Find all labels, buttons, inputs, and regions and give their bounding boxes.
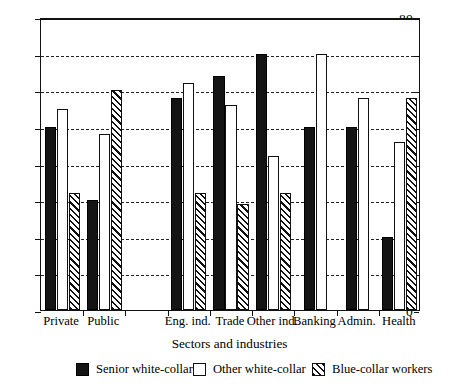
bar [45,127,56,310]
y-tick-right-0 [414,312,419,313]
gridline-70 [41,56,419,57]
y-tick-right-60 [414,92,419,93]
x-axis-title: Sectors and industries [0,336,459,352]
bar [87,200,98,310]
y-tick-20 [35,239,41,240]
y-tick-80 [35,19,41,20]
chart-legend: Senior white-collarOther white-collarBlu… [0,363,459,383]
bar [382,237,393,310]
legend-item: Senior white-collar [76,363,193,376]
bar [394,142,405,310]
bar [256,54,267,310]
open-white-swatch [193,363,206,376]
gridline-60 [41,92,419,93]
y-tick-10 [35,275,41,276]
y-tick-0 [35,312,41,313]
y-tick-50 [35,129,41,130]
bar [213,76,224,310]
bar [195,193,206,310]
bar [304,127,315,310]
bar [316,54,327,310]
bar [280,193,291,310]
bar [99,134,110,310]
bar-chart: 01020304050607080 PrivatePublicEng. ind.… [0,0,459,390]
diagonal-hatch-swatch [312,363,325,376]
legend-label: Senior white-collar [96,363,193,376]
x-axis-category-label: Public [76,315,130,328]
y-tick-70 [35,56,41,57]
legend-item: Other white-collar [193,363,306,376]
y-tick-60 [35,92,41,93]
bar [237,204,248,310]
bar [183,83,194,310]
y-tick-right-80 [414,19,419,20]
solid-black-swatch [76,363,89,376]
legend-label: Blue-collar workers [332,363,432,376]
bar [57,109,68,310]
bar [346,127,357,310]
bar [171,98,182,310]
bar [358,98,369,310]
y-tick-right-70 [414,56,419,57]
bar [268,156,279,310]
bar [406,98,417,310]
bar [69,193,80,310]
plot-area [40,18,420,311]
y-tick-40 [35,166,41,167]
legend-item: Blue-collar workers [312,363,432,376]
y-tick-30 [35,202,41,203]
x-axis-category-label: Health [372,315,426,328]
bar [225,105,236,310]
gridline-80 [41,19,419,20]
bar [111,90,122,310]
legend-label: Other white-collar [213,363,306,376]
